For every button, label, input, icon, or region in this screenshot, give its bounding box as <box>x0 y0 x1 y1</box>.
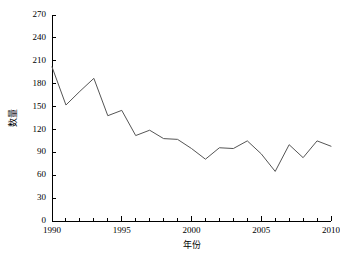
y-tick-label: 240 <box>33 32 47 42</box>
y-tick-label: 120 <box>33 124 47 134</box>
y-tick-label: 60 <box>37 169 47 179</box>
x-tick-label: 1995 <box>113 225 132 235</box>
x-tick-label: 2010 <box>322 225 340 235</box>
y-axis-title: 数量 <box>7 109 18 127</box>
x-axis: 19901995200020052010 <box>43 216 340 235</box>
line-chart: 0306090120150180210240270 19901995200020… <box>0 0 340 258</box>
y-tick-label: 90 <box>37 146 47 156</box>
y-tick-label: 0 <box>42 215 47 225</box>
y-tick-label: 30 <box>37 192 47 202</box>
y-tick-label: 150 <box>33 101 47 111</box>
x-axis-title: 年份 <box>183 239 201 250</box>
x-tick-label: 2000 <box>183 225 202 235</box>
x-tick-label: 1990 <box>43 225 62 235</box>
y-tick-label: 180 <box>33 78 47 88</box>
y-tick-label: 270 <box>33 9 47 19</box>
y-axis: 0306090120150180210240270 <box>33 9 57 225</box>
series-polyline <box>52 67 331 172</box>
chart-canvas: 0306090120150180210240270 19901995200020… <box>0 0 340 258</box>
y-tick-label: 210 <box>33 55 47 65</box>
x-tick-label: 2005 <box>252 225 271 235</box>
data-series <box>52 67 331 172</box>
